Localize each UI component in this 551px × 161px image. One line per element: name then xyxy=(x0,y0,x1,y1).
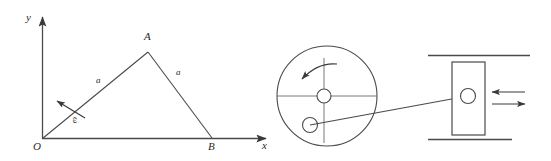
slider-pin xyxy=(461,89,476,104)
angular-velocity-label: ω xyxy=(71,117,80,123)
origin-label: O xyxy=(33,141,41,152)
side-ab-length-label: a xyxy=(176,68,181,77)
crank-disk xyxy=(277,46,377,146)
x-axis-label: x xyxy=(262,140,267,151)
side-oa-length-label: a xyxy=(96,76,101,85)
connecting-rod xyxy=(310,96,468,125)
slider-assembly xyxy=(428,56,530,140)
triangle-linkage xyxy=(43,52,213,139)
mechanism-figure: y x O A B a a ω xyxy=(0,0,551,161)
slider-motion-arrows xyxy=(492,92,525,104)
disk-hub xyxy=(317,89,331,103)
figure-canvas xyxy=(0,0,551,161)
link-OA xyxy=(43,52,149,139)
vertex-a-label: A xyxy=(144,31,151,42)
rotation-direction-arc-icon xyxy=(302,64,337,79)
y-axis-label: y xyxy=(26,12,31,23)
link-AB xyxy=(148,52,212,138)
vertex-b-label: B xyxy=(208,141,215,152)
